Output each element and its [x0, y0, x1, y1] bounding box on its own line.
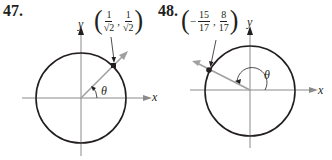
problem-47-panel: 47. y x θ ( 1 √2 , 1 √2 ) [0, 0, 166, 160]
point-coordinates: ( − 15 17 , 8 17 ) [181, 8, 238, 34]
negative-sign: − [190, 15, 196, 27]
y-coordinate: 1 √2 [123, 10, 134, 33]
x-coordinate: 15 17 [198, 10, 210, 33]
x-axis-label: x [152, 90, 157, 105]
point-marker [111, 63, 116, 68]
x-axis-label: x [318, 83, 323, 98]
point-marker [206, 67, 212, 73]
angle-arc [237, 68, 267, 90]
y-axis-label: y [78, 17, 83, 32]
angle-theta-label: θ [101, 84, 107, 99]
angle-theta-label: θ [264, 68, 270, 83]
y-coordinate: 8 17 [219, 10, 229, 33]
x-axis-arrow-icon [143, 95, 152, 101]
point-coordinates: ( 1 √2 , 1 √2 ) [94, 8, 143, 34]
x-coordinate: 1 √2 [104, 10, 115, 33]
y-axis-label: y [247, 15, 252, 30]
x-axis-arrow-icon [309, 87, 318, 93]
problem-48-panel: 48. y x θ ( − 15 17 , 8 17 ) [166, 0, 332, 160]
